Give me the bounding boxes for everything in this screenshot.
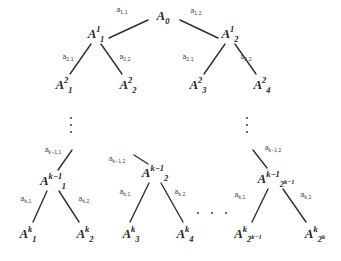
edge-label-e_k_2_L: ak,2 bbox=[79, 195, 90, 202]
tree-node-n2_3: A23 bbox=[189, 78, 206, 91]
tree-node-nk1_1: Ak−11 bbox=[40, 174, 66, 187]
edge-label-e_2_2_R: a2,2 bbox=[240, 53, 251, 60]
tree-edge bbox=[109, 20, 148, 38]
tree-node-n1_1: A11 bbox=[88, 27, 105, 40]
tree-edge bbox=[134, 155, 148, 164]
ellipsis-hdots-bottom bbox=[197, 212, 227, 214]
tree-node-n2_4: A24 bbox=[253, 78, 270, 91]
edge-label-e_k_1_R: ak,1 bbox=[235, 191, 246, 198]
tree-node-nk1_2: Ak−12 bbox=[142, 166, 169, 179]
edge-label-e_2_2_L: a2,2 bbox=[119, 53, 130, 60]
edge-label-e_k_2_M: ak,2 bbox=[175, 188, 186, 195]
ellipsis-dot bbox=[70, 124, 72, 126]
edge-label-e_1_1: a1,1 bbox=[116, 6, 127, 13]
edge-label-e_k_1_M: ak,1 bbox=[120, 188, 131, 195]
tree-node-nk_2: Ak2 bbox=[76, 227, 93, 240]
edge-label-e_km1_2_R: ak−1,2 bbox=[265, 144, 282, 151]
tree-node-nk_5: Ak2k−1 bbox=[234, 227, 262, 240]
tree-edge bbox=[180, 20, 218, 38]
edge-label-e_2_1_L: a2,1 bbox=[62, 53, 73, 60]
ellipsis-dot bbox=[246, 117, 248, 119]
tree-node-n2_2: A22 bbox=[119, 78, 136, 91]
tree-edge bbox=[33, 191, 47, 222]
tree-node-nk1_3: Ak−12k−1 bbox=[257, 172, 294, 185]
tree-node-root: A0 bbox=[157, 9, 170, 22]
ellipsis-vdots-right bbox=[246, 117, 248, 133]
ellipsis-dot bbox=[70, 131, 72, 133]
edge-label-e_1_2: a1,2 bbox=[190, 7, 201, 14]
binary-tree-figure: A0A11A12A21A22A23A24Ak−11Ak−12Ak−12k−1Ak… bbox=[0, 0, 341, 261]
ellipsis-dot bbox=[70, 117, 72, 119]
tree-node-nk_3: Ak3 bbox=[122, 227, 139, 240]
tree-edge bbox=[253, 150, 267, 168]
ellipsis-dot bbox=[211, 212, 213, 214]
edge-label-e_2_1_R: a2,1 bbox=[182, 53, 193, 60]
edge-label-e_k_1_L: ak,1 bbox=[21, 195, 32, 202]
tree-node-n2_1: A21 bbox=[55, 78, 72, 91]
tree-node-nk_4: Ak4 bbox=[176, 227, 193, 240]
ellipsis-vdots-left bbox=[70, 117, 72, 133]
ellipsis-dot bbox=[246, 131, 248, 133]
tree-node-n1_2: A12 bbox=[221, 27, 238, 40]
edge-label-e_km1_2_M: ak−1,2 bbox=[109, 155, 126, 162]
tree-edge bbox=[204, 44, 225, 74]
edge-label-e_k_2_R: ak,2 bbox=[301, 191, 312, 198]
edge-label-e_km1_1: ak−1,1 bbox=[45, 146, 62, 153]
ellipsis-dot bbox=[197, 212, 199, 214]
tree-node-nk_6: Ak2k bbox=[305, 227, 325, 240]
tree-edge bbox=[59, 191, 79, 222]
tree-edges-layer bbox=[0, 0, 341, 261]
ellipsis-dot bbox=[246, 124, 248, 126]
tree-edge bbox=[252, 189, 268, 222]
ellipsis-dot bbox=[225, 212, 227, 214]
tree-node-nk_1: Ak1 bbox=[19, 227, 36, 240]
tree-edge bbox=[130, 183, 149, 222]
